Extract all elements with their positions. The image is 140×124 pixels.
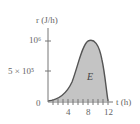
origin-label: 0 <box>36 99 41 108</box>
x-tick-label-12: 12 <box>104 108 113 117</box>
x-axis-label: t (h) <box>116 98 131 107</box>
y-tick-label-high: 10⁶ <box>29 36 41 45</box>
x-tick-label-8: 8 <box>86 108 91 117</box>
y-tick-label-mid: 5 × 10⁵ <box>8 67 34 76</box>
region-label: E <box>87 72 93 81</box>
x-tick-label-4: 4 <box>66 108 71 117</box>
y-axis-label: r (J/h) <box>36 16 58 25</box>
